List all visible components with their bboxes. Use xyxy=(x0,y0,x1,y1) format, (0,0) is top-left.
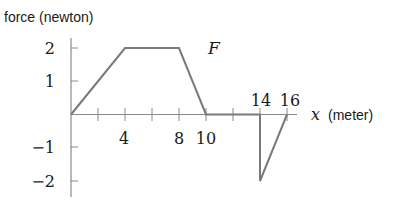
x-tick-label-14: 14 xyxy=(251,91,271,110)
x-tick-label-8: 8 xyxy=(174,129,184,148)
y-axis-label: force (newton) xyxy=(4,9,93,25)
x-axis-label: x (meter) xyxy=(311,105,373,124)
y-tick-label-neg2: −2 xyxy=(31,172,55,191)
y-tick-label-2: 2 xyxy=(45,39,55,58)
force-chart: force (newton) 2 1 −1 −2 4 8 10 14 16 x … xyxy=(0,0,399,205)
x-axis-unit: (meter) xyxy=(328,107,373,123)
y-tick-label-neg1: −1 xyxy=(31,138,55,157)
x-tick-label-16: 16 xyxy=(280,91,300,110)
x-axis-variable: x xyxy=(311,105,320,124)
x-tick-label-10: 10 xyxy=(196,129,216,148)
x-tick-label-4: 4 xyxy=(119,129,129,148)
y-tick-label-1: 1 xyxy=(45,72,55,91)
series-label-f: F xyxy=(207,38,221,58)
